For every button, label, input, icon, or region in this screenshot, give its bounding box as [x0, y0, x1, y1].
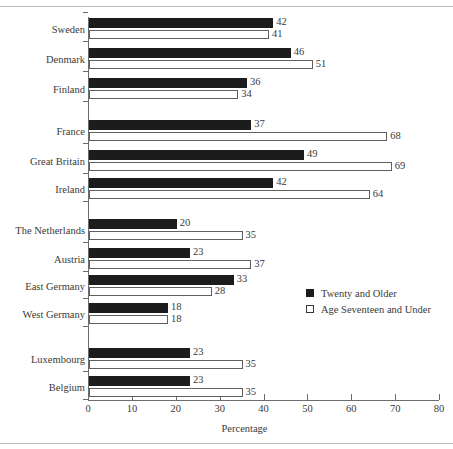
- category-label: East Germany: [0, 281, 85, 292]
- bar-value-label: 23: [193, 374, 204, 385]
- bar-group-row: Denmark4651: [0, 47, 453, 77]
- bar-group-row: Sweden4241: [0, 17, 453, 47]
- bar-value-label: 68: [390, 130, 401, 141]
- bar-value-label: 35: [246, 358, 257, 369]
- legend-item-age-seventeen-and-under: Age Seventeen and Under: [306, 301, 431, 317]
- bar-twenty-and-older: [89, 248, 190, 258]
- bar-group-row: Ireland4264: [0, 177, 453, 207]
- y-axis-tick: [83, 12, 88, 13]
- category-label: Austria: [0, 254, 85, 265]
- bar-value-label: 23: [193, 346, 204, 357]
- bar-value-label: 42: [276, 176, 287, 187]
- filled-square-icon: [306, 289, 314, 297]
- bar-age-seventeen-and-under: [89, 260, 251, 269]
- bar-twenty-and-older: [89, 348, 190, 358]
- category-label: Denmark: [0, 54, 85, 65]
- bar-value-label: 33: [237, 273, 248, 284]
- category-label: Great Britain: [0, 156, 85, 167]
- legend-item-twenty-and-older: Twenty and Older: [306, 285, 431, 301]
- x-axis-title-wrap: Percentage: [0, 423, 453, 434]
- bar-twenty-and-older: [89, 150, 304, 160]
- bar-group-row: Austria2337: [0, 247, 453, 277]
- bar-group-row: Belgium2335: [0, 375, 453, 405]
- bar-value-label: 46: [294, 46, 305, 57]
- bar-age-seventeen-and-under: [89, 132, 387, 141]
- bar-group-row: Great Britain4969: [0, 149, 453, 179]
- category-label: Belgium: [0, 382, 85, 393]
- bar-value-label: 69: [395, 160, 406, 171]
- bar-twenty-and-older: [89, 78, 247, 88]
- chart-legend: Twenty and Older Age Seventeen and Under: [306, 285, 431, 317]
- bar-twenty-and-older: [89, 303, 168, 313]
- bar-twenty-and-older: [89, 275, 234, 285]
- category-label: Sweden: [0, 24, 85, 35]
- category-label: West Germany: [0, 309, 85, 320]
- bar-twenty-and-older: [89, 48, 291, 58]
- bar-group-row: Finland3634: [0, 77, 453, 107]
- category-label: France: [0, 126, 85, 137]
- bar-group-row: Luxembourg2335: [0, 347, 453, 377]
- bar-twenty-and-older: [89, 120, 251, 130]
- bar-value-label: 18: [171, 313, 182, 324]
- bar-value-label: 37: [254, 258, 265, 269]
- bar-value-label: 36: [250, 76, 261, 87]
- bar-value-label: 28: [215, 285, 226, 296]
- bar-value-label: 23: [193, 246, 204, 257]
- bar-value-label: 64: [373, 188, 384, 199]
- bar-age-seventeen-and-under: [89, 90, 238, 99]
- category-label: Ireland: [0, 184, 85, 195]
- bar-age-seventeen-and-under: [89, 162, 392, 171]
- legend-label-twenty-and-older: Twenty and Older: [321, 288, 397, 299]
- bar-age-seventeen-and-under: [89, 315, 168, 324]
- bar-twenty-and-older: [89, 18, 273, 28]
- x-axis-title: Percentage: [221, 423, 267, 434]
- bar-age-seventeen-and-under: [89, 388, 243, 397]
- bar-value-label: 51: [316, 58, 327, 69]
- bar-value-label: 41: [272, 28, 283, 39]
- bar-value-label: 34: [241, 88, 252, 99]
- bar-value-label: 18: [171, 301, 182, 312]
- category-label: Finland: [0, 84, 85, 95]
- bar-value-label: 35: [246, 229, 257, 240]
- bar-age-seventeen-and-under: [89, 360, 243, 369]
- bar-group-row: The Netherlands2035: [0, 218, 453, 248]
- bar-value-label: 20: [180, 217, 191, 228]
- bar-value-label: 42: [276, 16, 287, 27]
- bar-value-label: 35: [246, 386, 257, 397]
- category-label: Luxembourg: [0, 354, 85, 365]
- bar-group-row: France3768: [0, 119, 453, 149]
- bar-age-seventeen-and-under: [89, 190, 370, 199]
- bar-age-seventeen-and-under: [89, 287, 212, 296]
- hollow-square-icon: [306, 305, 314, 313]
- bar-chart-plot-area: 01020304050607080 Sweden4241Denmark4651F…: [0, 0, 453, 449]
- bar-twenty-and-older: [89, 219, 177, 229]
- bar-value-label: 37: [254, 118, 265, 129]
- bar-age-seventeen-and-under: [89, 30, 269, 39]
- bar-value-label: 49: [307, 148, 318, 159]
- bar-twenty-and-older: [89, 178, 273, 188]
- bar-twenty-and-older: [89, 376, 190, 386]
- bar-age-seventeen-and-under: [89, 60, 313, 69]
- category-label: The Netherlands: [0, 225, 85, 236]
- legend-label-age-seventeen-and-under: Age Seventeen and Under: [321, 304, 431, 315]
- bar-age-seventeen-and-under: [89, 231, 243, 240]
